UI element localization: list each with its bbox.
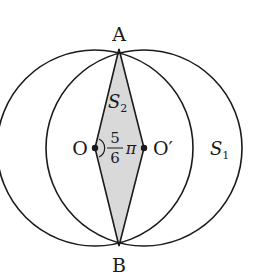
geometry-diagram: A B O O′ S2 S1 5 6 π xyxy=(0,0,253,279)
label-o-prime: O′ xyxy=(153,137,173,159)
point-o xyxy=(92,145,98,151)
label-s1: S1 xyxy=(210,138,229,162)
angle-denominator: 6 xyxy=(110,149,120,167)
angle-pi: π xyxy=(125,139,137,158)
label-b: B xyxy=(112,254,126,276)
label-o: O xyxy=(72,137,88,159)
point-o-prime xyxy=(141,145,147,151)
angle-numerator: 5 xyxy=(110,129,120,147)
label-a: A xyxy=(111,23,126,45)
